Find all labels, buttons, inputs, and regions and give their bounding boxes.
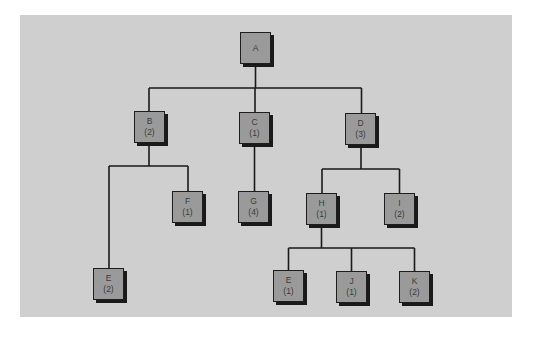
node-k: K (2) xyxy=(399,271,430,303)
node-e-left: E (2) xyxy=(93,268,124,300)
node-d: D (3) xyxy=(345,113,376,145)
node-label: A xyxy=(253,43,259,54)
node-value: (1) xyxy=(249,128,259,139)
link-a xyxy=(149,64,362,113)
node-j: J (1) xyxy=(336,271,367,303)
node-label: B xyxy=(147,116,153,127)
node-label: J xyxy=(349,276,353,287)
node-label: E xyxy=(286,275,292,286)
link-d xyxy=(322,146,400,193)
node-value: (1) xyxy=(316,209,326,220)
node-g: G (4) xyxy=(238,191,269,223)
node-e-right: E (1) xyxy=(273,270,304,302)
node-value: (3) xyxy=(355,129,365,140)
node-value: (2) xyxy=(409,287,419,298)
node-i: I (2) xyxy=(384,193,415,225)
node-label: K xyxy=(412,276,418,287)
node-label: I xyxy=(398,198,400,209)
node-c: C (1) xyxy=(239,112,270,144)
node-value: (2) xyxy=(144,127,154,138)
node-label: D xyxy=(357,118,363,129)
node-label: G xyxy=(250,196,257,207)
node-value: (2) xyxy=(394,209,404,220)
node-h: H (1) xyxy=(306,193,337,225)
node-value: (4) xyxy=(248,207,258,218)
node-label: F xyxy=(185,196,190,207)
node-value: (2) xyxy=(103,284,113,295)
node-label: C xyxy=(251,117,257,128)
node-f: F (1) xyxy=(172,191,203,223)
node-label: E xyxy=(106,273,112,284)
node-value: (1) xyxy=(283,286,293,297)
node-a: A xyxy=(240,32,271,64)
link-h xyxy=(289,225,415,271)
node-label: H xyxy=(318,198,324,209)
node-value: (1) xyxy=(182,207,192,218)
node-value: (1) xyxy=(346,287,356,298)
node-b: B (2) xyxy=(134,111,165,143)
